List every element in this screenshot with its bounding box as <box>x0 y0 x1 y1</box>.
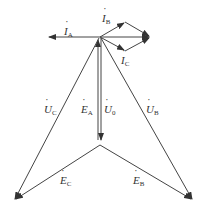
label-ib-sub: B <box>106 18 111 26</box>
label-ia-sub: A <box>68 31 73 39</box>
label-ea-main: E <box>81 103 88 115</box>
label-ec-sub: C <box>67 180 72 188</box>
label-eb-sub: B <box>140 180 145 188</box>
label-ia-main: I <box>64 25 68 37</box>
parallelogram-top <box>125 22 149 36</box>
label-ea: EA <box>81 104 93 117</box>
label-ub-sub: B <box>154 109 159 117</box>
label-uc-sub: C <box>52 109 57 117</box>
label-ic: IC <box>121 55 129 68</box>
label-ic-main: I <box>121 54 125 66</box>
label-ec-main: E <box>60 174 67 186</box>
label-ec: EC <box>60 175 71 188</box>
phasor-diagram: IA IB IC UC EA U0 UB EC EB <box>0 0 209 212</box>
phasor-uc <box>15 38 99 199</box>
label-uc-main: U <box>44 103 52 115</box>
label-ub: UB <box>146 104 159 117</box>
parallelogram-bottom <box>125 38 149 51</box>
phasor-ub <box>101 38 192 199</box>
label-ib-main: I <box>102 12 106 24</box>
label-ic-sub: C <box>125 60 130 68</box>
label-eb-main: E <box>133 174 140 186</box>
label-u0-main: U <box>104 103 112 115</box>
label-ub-main: U <box>146 103 154 115</box>
label-ib: IB <box>102 13 110 26</box>
label-eb: EB <box>133 175 144 188</box>
label-u0: U0 <box>104 104 115 117</box>
label-uc: UC <box>44 104 57 117</box>
label-u0-sub: 0 <box>112 109 116 117</box>
label-ia: IA <box>64 26 73 39</box>
phasor-eb <box>100 145 191 199</box>
label-ea-sub: A <box>88 109 93 117</box>
